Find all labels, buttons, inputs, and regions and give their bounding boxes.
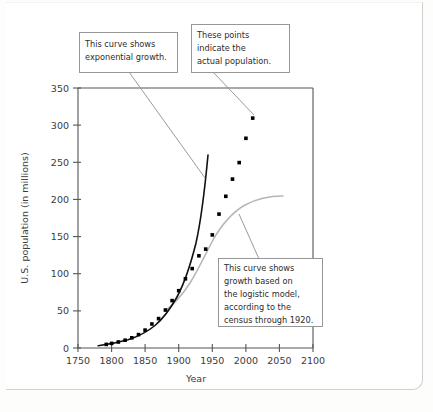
y-tick-label: 250 [51,157,69,168]
x-tick-label: 1900 [167,355,191,366]
points-callout-leader [213,72,254,115]
x-axis-tick-labels: 1750 1800 1850 1900 1950 2000 2050 2100 [66,355,325,366]
data-point [143,328,147,332]
x-tick-label: 1800 [100,355,124,366]
data-point [117,340,121,344]
points-callout-line: These points [196,30,249,40]
data-point [157,317,161,321]
data-point [190,267,194,271]
data-point [211,233,215,237]
x-tick-label: 1950 [200,355,224,366]
points-callout: These points indicate the actual populat… [192,25,290,116]
x-tick-label: 2100 [301,355,325,366]
data-point [105,343,109,347]
exponential-growth-curve [98,155,208,346]
logistic-callout-line: according to the [224,302,291,312]
logistic-callout-line: census through 1920. [224,315,313,325]
y-tick-label: 200 [51,194,69,205]
exponential-callout-line: This curve shows [84,39,155,49]
data-point [123,338,127,342]
x-tick-label: 2000 [234,355,258,366]
data-point [251,116,255,120]
data-point [204,247,208,251]
y-axis-title: U.S. population (in millions) [19,152,30,283]
y-axis: 0 50 100 150 200 250 300 350 U.S. popula… [19,83,81,354]
data-point [137,333,141,337]
exponential-callout-line: exponential growth. [85,52,167,62]
y-axis-tick-labels: 0 50 100 150 200 250 300 350 [51,83,69,354]
y-tick-label: 50 [57,305,69,316]
data-point [224,195,228,199]
data-point [177,289,181,293]
y-axis-ticks [73,88,81,348]
data-point [130,336,134,340]
logistic-callout-line: This curve shows [223,263,294,273]
exponential-callout: This curve shows exponential growth. [80,33,206,179]
data-point [170,299,174,303]
y-tick-label: 150 [51,231,69,242]
population-growth-chart: 0 50 100 150 200 250 300 350 U.S. popula… [0,0,433,412]
data-point [150,322,154,326]
y-tick-label: 0 [63,343,69,354]
points-callout-line: actual population. [197,56,271,66]
data-point [184,277,188,281]
logistic-callout: This curve shows growth based on the log… [219,214,323,327]
x-axis-title: Year [185,373,206,384]
data-point [197,254,201,258]
page-background: 0 50 100 150 200 250 300 350 U.S. popula… [0,0,433,412]
y-tick-label: 100 [51,268,69,279]
data-point [217,212,221,216]
x-tick-label: 2050 [267,355,291,366]
data-point [237,161,241,165]
x-tick-label: 1850 [133,355,157,366]
points-callout-line: indicate the [197,43,246,53]
data-point [164,308,168,312]
data-point [244,137,248,141]
logistic-callout-line: growth based on [224,276,293,286]
logistic-callout-leader [239,214,259,259]
y-tick-label: 300 [51,120,69,131]
x-tick-label: 1750 [66,355,90,366]
y-tick-label: 350 [51,83,69,94]
data-point [231,177,235,181]
data-point [110,342,114,346]
x-axis: 1750 1800 1850 1900 1950 2000 2050 2100 … [66,344,325,384]
logistic-callout-line: the logistic model, [224,289,300,299]
